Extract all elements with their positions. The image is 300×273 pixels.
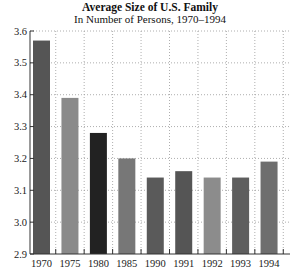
bar-1985 — [118, 158, 135, 254]
y-tick-label: 3.1 — [14, 185, 27, 196]
y-tick-label: 2.9 — [14, 249, 27, 260]
bar-1970 — [33, 41, 50, 254]
bar-1975 — [61, 98, 78, 254]
y-tick-label: 3.3 — [14, 121, 27, 132]
bar-chart: 2.93.03.13.23.33.43.53.61970197519801985… — [0, 0, 300, 273]
y-tick-label: 3.0 — [14, 217, 27, 228]
y-tick-label: 3.5 — [14, 57, 27, 68]
x-tick-label: 1985 — [116, 258, 137, 269]
x-tick-label: 1975 — [59, 258, 80, 269]
bar-1980 — [90, 133, 107, 254]
x-tick-label: 1994 — [259, 258, 281, 269]
bar-1994 — [261, 162, 278, 254]
x-tick-label: 1992 — [202, 258, 223, 269]
x-tick-label: 1980 — [88, 258, 109, 269]
bar-1993 — [232, 178, 249, 254]
bar-1990 — [147, 178, 164, 254]
x-tick-label: 1991 — [173, 258, 194, 269]
x-tick-label: 1993 — [230, 258, 251, 269]
bars — [33, 41, 278, 254]
y-tick-label: 3.4 — [14, 89, 28, 100]
y-tick-label: 3.2 — [14, 153, 27, 164]
bar-1991 — [175, 171, 192, 254]
x-tick-label: 1970 — [31, 258, 52, 269]
bar-1992 — [204, 178, 221, 254]
y-tick-label: 3.6 — [14, 26, 27, 37]
x-tick-label: 1990 — [145, 258, 166, 269]
